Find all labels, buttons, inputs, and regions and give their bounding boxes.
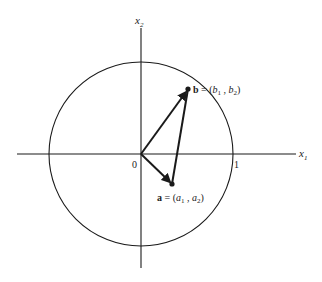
point-b bbox=[185, 86, 190, 91]
point-b-label: b = (b1 , b2) bbox=[193, 84, 240, 97]
vector-a bbox=[141, 154, 170, 182]
x2-axis-label: x2 bbox=[134, 14, 144, 29]
unit-circle-vector-diagram: x2 x1 0 1 b = (b1 , b2) a = (a1 , a2) bbox=[0, 0, 322, 282]
segment-a-to-b bbox=[172, 89, 188, 184]
x1-axis-label: x1 bbox=[298, 147, 307, 162]
unit-tick-label: 1 bbox=[234, 159, 239, 170]
point-a-label: a = (a1 , a2) bbox=[157, 192, 204, 205]
origin-label: 0 bbox=[132, 159, 137, 170]
point-a bbox=[169, 181, 174, 186]
